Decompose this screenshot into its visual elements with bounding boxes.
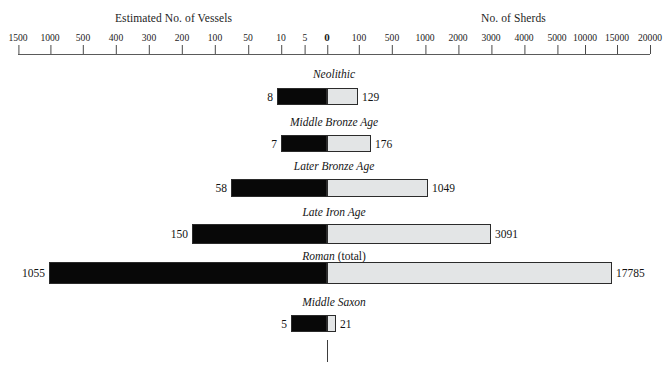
axis-tick-mark [116, 45, 117, 54]
axis-tick: 3000 [481, 32, 500, 43]
row-label-middle-saxon: Middle Saxon [0, 296, 668, 308]
axis-tick-label: 3000 [481, 32, 500, 43]
axis-tick: 2000 [448, 32, 467, 43]
bar-group-middle-saxon: 521 [0, 315, 668, 332]
axis-tick-mark [425, 45, 426, 54]
bar-sherds-later-bronze-age [327, 179, 428, 197]
bar-sherds-roman-total [327, 262, 612, 284]
center-axis-tick [327, 340, 328, 362]
row-label-text: Roman [302, 250, 335, 262]
bar-vessels-middle-bronze-age [281, 135, 327, 152]
axis-tick-mark [359, 45, 360, 54]
diverging-bar-chart: Estimated No. of Vessels No. of Sherds 1… [0, 0, 668, 367]
axis-tick-label: 500 [385, 32, 399, 43]
axis-tick: 10000 [573, 32, 597, 43]
axis-tick-label: 1000 [415, 32, 434, 43]
axis-scale: 1500100050040030020010050105010050010002… [0, 32, 668, 62]
axis-tick-mark [491, 45, 492, 54]
bar-group-late-iron-age: 1503091 [0, 224, 668, 244]
row-label-neolithic: Neolithic [0, 68, 668, 80]
value-vessels-neolithic: 8 [267, 92, 273, 104]
axis-tick-mark [248, 45, 249, 54]
bar-sherds-neolithic [327, 88, 358, 105]
row-label-late-iron-age: Late Iron Age [0, 206, 668, 218]
value-vessels-later-bronze-age: 58 [216, 183, 228, 195]
axis-tick-mark [327, 45, 328, 54]
axis-tick-label: 100 [208, 32, 222, 43]
value-vessels-middle-saxon: 5 [281, 319, 287, 331]
axis-tick: 20000 [638, 32, 662, 43]
bar-vessels-late-iron-age [192, 224, 327, 244]
axis-tick-mark [392, 45, 393, 54]
axis-title-vessels: Estimated No. of Vessels [115, 12, 232, 24]
axis-tick-label: 300 [142, 32, 156, 43]
row-label-later-bronze-age: Later Bronze Age [0, 160, 668, 172]
axis-tick: 100 [352, 32, 366, 43]
axis-tick-label: 100 [352, 32, 366, 43]
bar-group-neolithic: 8129 [0, 88, 668, 105]
axis-tick-label: 15000 [605, 32, 629, 43]
axis-tick: 1000 [40, 32, 59, 43]
axis-tick: 100 [208, 32, 222, 43]
axis-tick-mark [18, 45, 19, 54]
bar-sherds-middle-bronze-age [327, 135, 371, 152]
axis-baseline [18, 54, 650, 55]
row-label-roman-total: Roman (total) [0, 250, 668, 262]
axis-tick-label: 1000 [40, 32, 59, 43]
axis-tick: 500 [76, 32, 90, 43]
value-sherds-middle-bronze-age: 176 [375, 139, 392, 151]
axis-tick-label: 10 [276, 32, 286, 43]
axis-tick-mark [458, 45, 459, 54]
value-sherds-neolithic: 129 [362, 92, 379, 104]
axis-tick-mark [617, 45, 618, 54]
axis-tick: 5 [303, 32, 308, 43]
axis-tick-mark [585, 45, 586, 54]
axis-tick: 10 [276, 32, 286, 43]
axis-tick-zero: 0 [324, 32, 330, 43]
bar-vessels-middle-saxon [291, 315, 327, 332]
bar-sherds-late-iron-age [327, 224, 491, 244]
row-label-middle-bronze-age: Middle Bronze Age [0, 116, 668, 128]
axis-tick-mark [557, 45, 558, 54]
row-label-text: Later Bronze Age [294, 160, 375, 172]
bar-group-later-bronze-age: 581049 [0, 179, 668, 197]
axis-tick-label: 50 [243, 32, 253, 43]
axis-tick: 50 [243, 32, 253, 43]
axis-tick-label: 4000 [514, 32, 533, 43]
axis-tick-label: 200 [175, 32, 189, 43]
bar-vessels-neolithic [277, 88, 327, 105]
axis-tick-label: 10000 [573, 32, 597, 43]
value-vessels-late-iron-age: 150 [171, 229, 188, 241]
bar-vessels-roman-total [49, 262, 327, 284]
axis-tick-label: 5000 [547, 32, 566, 43]
row-label-text: Late Iron Age [302, 206, 365, 218]
bar-group-roman-total: 105517785 [0, 262, 668, 284]
row-label-text: Neolithic [313, 68, 355, 80]
bar-sherds-middle-saxon [327, 315, 336, 332]
value-vessels-middle-bronze-age: 7 [271, 139, 277, 151]
axis-tick: 200 [175, 32, 189, 43]
axis-tick-label: 2000 [448, 32, 467, 43]
axis-tick-mark [215, 45, 216, 54]
bar-group-middle-bronze-age: 7176 [0, 135, 668, 152]
axis-tick: 500 [385, 32, 399, 43]
axis-tick-mark [650, 45, 651, 54]
axis-tick: 400 [109, 32, 123, 43]
row-label-suffix: (total) [335, 250, 366, 262]
axis-tick: 1500 [8, 32, 27, 43]
value-sherds-late-iron-age: 3091 [495, 229, 518, 241]
axis-tick: 1000 [415, 32, 434, 43]
value-sherds-roman-total: 17785 [616, 268, 645, 280]
axis-tick: 4000 [514, 32, 533, 43]
value-sherds-later-bronze-age: 1049 [432, 183, 455, 195]
axis-tick-mark [524, 45, 525, 54]
axis-tick-label: 500 [76, 32, 90, 43]
axis-tick-label: 20000 [638, 32, 662, 43]
axis-tick-mark [305, 45, 306, 54]
axis-tick-mark [50, 45, 51, 54]
value-vessels-roman-total: 1055 [22, 268, 45, 280]
axis-tick-mark [83, 45, 84, 54]
axis-tick-label: 400 [109, 32, 123, 43]
axis-tick: 15000 [605, 32, 629, 43]
axis-tick: 5000 [547, 32, 566, 43]
